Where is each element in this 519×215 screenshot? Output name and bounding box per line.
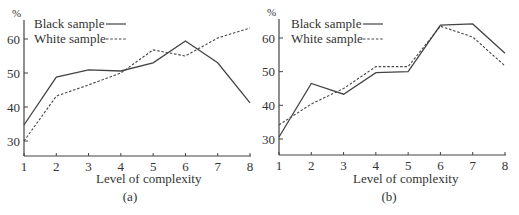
chart-panel-a: %3040506012345678Black sampleWhite sampl… (0, 0, 260, 215)
legend-label: White sample (291, 31, 363, 46)
legend-label: Black sample (291, 16, 362, 31)
x-tick-label: 7 (469, 158, 476, 173)
caption-b: (b) (259, 189, 519, 205)
y-tick-label: 60 (262, 31, 275, 46)
x-tick-label: 3 (85, 159, 92, 174)
x-tick-label: 7 (214, 159, 221, 174)
x-tick-label: 2 (308, 158, 315, 173)
x-tick-label: 8 (502, 158, 509, 173)
y-axis-unit: % (12, 7, 21, 19)
y-tick-label: 50 (262, 64, 275, 79)
x-axis-label-a: Level of complexity (96, 171, 201, 187)
y-tick-label: 50 (7, 66, 20, 81)
x-tick-label: 3 (340, 158, 347, 173)
y-tick-label: 30 (262, 132, 275, 147)
x-tick-label: 8 (247, 159, 254, 174)
legend-label: White sample (34, 31, 106, 46)
black-sample-line (24, 41, 250, 125)
x-axis-label-b: Level of complexity (353, 171, 458, 187)
y-tick-label: 40 (7, 100, 20, 115)
caption-a: (a) (0, 189, 260, 205)
y-axis-unit: % (267, 6, 276, 18)
x-tick-label: 2 (53, 159, 60, 174)
x-tick-label: 1 (21, 159, 28, 174)
legend-label: Black sample (34, 16, 105, 31)
x-tick-label: 1 (276, 158, 283, 173)
chart-panel-b: %3040506012345678Black sampleWhite sampl… (259, 0, 519, 215)
y-tick-label: 60 (7, 32, 20, 47)
y-tick-label: 40 (262, 98, 275, 113)
y-tick-label: 30 (7, 134, 20, 149)
